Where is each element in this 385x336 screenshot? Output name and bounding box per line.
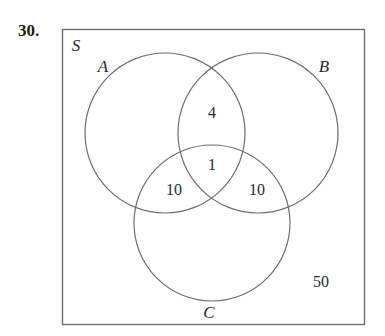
label-set-b: B bbox=[319, 57, 330, 76]
label-set-a: A bbox=[97, 57, 109, 76]
region-count-a-and-b-and-c: 1 bbox=[208, 156, 216, 173]
label-set-c: C bbox=[203, 303, 215, 322]
label-universe-s: S bbox=[72, 36, 81, 55]
region-count-b-and-c-only: 10 bbox=[249, 181, 265, 198]
region-count-outside-all-sets: 50 bbox=[313, 273, 329, 290]
venn-diagram-figure: 30. S A B C 4 1 10 10 50 bbox=[0, 0, 385, 336]
region-count-a-and-b-only: 4 bbox=[208, 104, 216, 121]
region-count-a-and-c-only: 10 bbox=[166, 181, 182, 198]
venn-diagram-canvas: S A B C 4 1 10 10 50 bbox=[0, 0, 385, 336]
circle-set-a bbox=[85, 53, 245, 213]
